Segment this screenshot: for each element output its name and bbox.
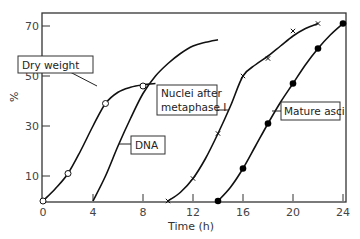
annotation-mature-asci: Mature asci [272,102,345,120]
label-dry-weight: Dry weight [22,59,79,71]
y-tick-label: 30 [25,120,39,133]
open-circle-marker [140,83,146,89]
x-tick-label: 24 [336,206,350,219]
x-tick-label: 16 [236,206,250,219]
y-tick-label: 10 [25,170,39,183]
y-tick-label: 70 [25,20,39,33]
filled-circle-marker [215,198,222,205]
open-circle-marker [103,101,109,107]
annotation-nuclei-after-metaphase: Nuclei after metaphase I [157,85,228,115]
filled-circle-marker [290,80,297,87]
x-tick-label: 12 [186,206,200,219]
x-tick-label: 0 [40,206,47,219]
label-nuclei-line1: Nuclei after [161,87,222,99]
x-tick-label: 8 [140,206,147,219]
filled-circle-marker [240,165,247,172]
filled-circle-marker [340,20,347,27]
y-axis-title: % [8,92,21,102]
open-circle-marker [40,198,46,204]
annotation-dna: DNA [119,136,165,154]
label-dna: DNA [135,139,159,151]
filled-circle-marker [265,120,272,127]
chart: 0481216202410305070 Time (h) % Dry weigh… [0,0,360,239]
curve-dna [93,40,218,201]
x-axis-title: Time (h) [167,220,214,233]
x-tick-label: 20 [286,206,300,219]
x-tick-label: 4 [90,206,97,219]
label-mature-asci: Mature asci [284,105,345,117]
label-nuclei-line2: metaphase I [161,101,226,113]
cross-marker [291,29,295,33]
cross-marker [191,176,195,180]
filled-circle-marker [315,45,322,52]
open-circle-marker [65,171,71,177]
